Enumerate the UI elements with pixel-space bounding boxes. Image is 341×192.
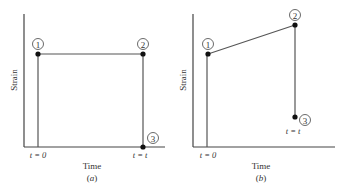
- marker-3-b-text: 3: [303, 116, 308, 126]
- point-3-a: [140, 144, 145, 149]
- caption-a: (a): [87, 173, 98, 183]
- panel-a: 1 2 3 t = 0 t = t Time Strain (a): [9, 14, 165, 183]
- tick-tt-b: t = t: [286, 126, 301, 136]
- marker-3-a-text: 3: [151, 134, 156, 144]
- sloped-line-1-2-b: [208, 25, 295, 54]
- strain-time-diagrams: 1 2 3 t = 0 t = t Time Strain (a): [0, 0, 341, 192]
- caption-b: (b): [256, 173, 267, 183]
- y-axis-label-a: Strain: [9, 69, 19, 91]
- marker-2-b: 2: [290, 10, 301, 21]
- tick-t0-a: t = 0: [30, 150, 47, 160]
- point-1-a: [35, 51, 40, 56]
- marker-1-a: 1: [33, 39, 44, 50]
- caption-a-letter: a: [90, 173, 95, 183]
- x-axis-label-b: Time: [252, 161, 271, 171]
- marker-1-a-text: 1: [36, 40, 41, 50]
- marker-2-b-text: 2: [293, 11, 298, 21]
- y-axis-label-b: Strain: [178, 69, 188, 91]
- marker-1-b: 1: [203, 39, 214, 50]
- marker-2-a-text: 2: [141, 40, 146, 50]
- point-1-b: [205, 51, 210, 56]
- tick-t0-b: t = 0: [200, 150, 217, 160]
- panel-b: 1 2 3 t = 0 t = t Time Strain (b): [178, 10, 335, 184]
- marker-2-a: 2: [138, 39, 149, 50]
- tick-tt-a: t = t: [133, 150, 148, 160]
- marker-3-a: 3: [148, 133, 159, 144]
- caption-b-letter: b: [259, 173, 264, 183]
- marker-1-b-text: 1: [206, 40, 211, 50]
- x-axis-label-a: Time: [83, 161, 102, 171]
- marker-3-b: 3: [300, 115, 311, 126]
- point-2-a: [140, 51, 145, 56]
- point-2-b: [292, 22, 297, 27]
- point-3-b: [292, 114, 297, 119]
